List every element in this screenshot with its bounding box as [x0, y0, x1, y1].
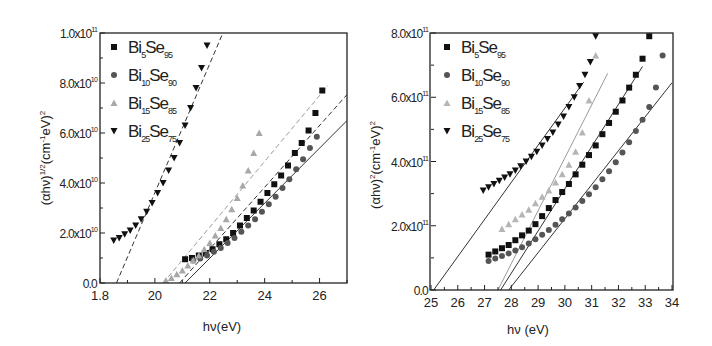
legend-label: Bi15Se85 — [461, 94, 510, 116]
data-point — [545, 187, 552, 194]
data-point — [225, 240, 231, 246]
data-point — [176, 140, 183, 147]
data-point — [252, 216, 258, 222]
data-point — [251, 208, 257, 214]
y-tick-label: 0.0 — [83, 277, 98, 291]
series-bi15se85 — [498, 52, 599, 232]
data-point — [599, 176, 605, 182]
data-point — [264, 190, 270, 196]
data-point — [553, 222, 559, 228]
data-point — [633, 128, 639, 134]
fit-line-bi15se85 — [498, 73, 608, 290]
data-point — [539, 213, 545, 219]
data-point — [526, 240, 532, 246]
right-legend: Bi5Se95Bi10Se90Bi15Se85Bi25Se75 — [444, 38, 510, 144]
data-point — [579, 162, 585, 168]
data-point — [653, 85, 659, 91]
data-point — [198, 65, 205, 72]
data-point — [549, 130, 556, 137]
x-tick-label: 26 — [451, 295, 465, 310]
x-tick-label: 27 — [477, 295, 491, 310]
legend-item-bi25se75: Bi25Se75 — [444, 122, 510, 144]
data-point — [505, 221, 512, 228]
data-point — [223, 216, 230, 223]
data-point — [211, 249, 217, 255]
data-point — [171, 155, 178, 162]
data-point — [571, 94, 578, 101]
data-point — [204, 253, 210, 259]
data-point — [525, 206, 532, 213]
data-point — [532, 200, 539, 207]
y-tick-label: 6.0x1010 — [60, 126, 98, 141]
data-point — [555, 122, 562, 128]
data-point — [234, 195, 241, 202]
data-point — [573, 171, 579, 177]
data-point — [237, 223, 243, 229]
data-point — [306, 128, 312, 134]
data-point — [606, 168, 612, 174]
data-point — [250, 150, 257, 157]
data-point — [559, 171, 566, 178]
y-tick-label: 4.0x1010 — [60, 176, 98, 191]
data-point — [499, 245, 505, 251]
data-point — [606, 120, 612, 126]
x-tick-label: 31 — [584, 295, 598, 310]
data-point — [143, 209, 150, 216]
data-point — [626, 139, 632, 145]
data-point — [307, 145, 313, 151]
data-point — [492, 248, 498, 254]
data-point — [560, 114, 567, 121]
y-tick-label: 1.0x1011 — [60, 26, 98, 41]
legend-label: Bi5Se95 — [128, 38, 173, 60]
data-point — [273, 194, 279, 200]
data-point — [259, 209, 265, 215]
left-x-axis-label: hν(eV) — [203, 319, 241, 334]
data-point — [539, 193, 546, 200]
data-point — [165, 168, 172, 175]
x-tick-label: 34 — [665, 295, 679, 310]
data-point — [512, 216, 519, 223]
legend-marker — [444, 100, 451, 107]
data-point — [182, 256, 188, 262]
data-point — [480, 187, 487, 194]
left-chart: 1.8202224260.02.0x10104.0x10106.0x10108.… — [38, 25, 347, 334]
data-point — [286, 176, 292, 182]
data-point — [212, 232, 219, 239]
data-point — [238, 229, 244, 235]
data-point — [506, 242, 512, 248]
data-point — [206, 240, 213, 247]
x-tick-label: 28 — [504, 295, 518, 310]
legend-item-bi25se75: Bi25Se75 — [111, 122, 177, 144]
data-point — [160, 180, 167, 187]
data-point — [271, 181, 277, 187]
data-point — [599, 131, 605, 137]
series-bi15se85 — [162, 130, 262, 284]
legend-marker — [111, 72, 117, 78]
data-point — [280, 185, 286, 191]
data-point — [319, 88, 325, 94]
data-point — [519, 232, 525, 238]
legend-item-bi15se85: Bi15Se85 — [444, 94, 510, 116]
data-point — [245, 167, 252, 174]
data-point — [559, 189, 565, 195]
data-point — [573, 204, 579, 210]
data-point — [592, 33, 599, 40]
left-y-axis-label: (αhν)1/2(cm-1eV)2 — [38, 110, 53, 205]
data-point — [127, 228, 134, 235]
data-point — [565, 104, 572, 111]
data-point — [660, 52, 666, 58]
data-point — [539, 232, 545, 238]
data-point — [121, 231, 128, 238]
data-point — [633, 72, 639, 78]
legend-item-bi10se90: Bi10Se90 — [444, 66, 510, 88]
data-point — [512, 237, 518, 243]
data-point — [138, 216, 145, 223]
data-point — [499, 253, 505, 259]
data-point — [498, 225, 505, 232]
data-point — [292, 150, 298, 156]
data-point — [110, 238, 117, 245]
data-point — [532, 236, 538, 242]
data-point — [640, 56, 646, 62]
right-y-axis-label: (αhν)2(cm-1eV)2 — [368, 121, 383, 209]
data-point — [566, 211, 572, 217]
